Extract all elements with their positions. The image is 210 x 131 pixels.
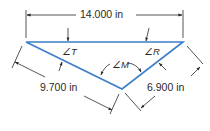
angle-m-arc-left xyxy=(101,64,110,75)
dimension-line-left-b xyxy=(84,96,112,110)
extension-line-left-b xyxy=(110,94,119,114)
angle-label-m: ∠M xyxy=(112,60,129,70)
angle-t-arrow-bottom xyxy=(59,62,62,71)
extension-line-right-b xyxy=(125,93,141,111)
dimension-label-right: 6.900 in xyxy=(147,82,184,93)
angle-label-r: ∠R xyxy=(144,47,160,57)
dimension-line-right-b xyxy=(141,96,155,108)
angle-r-arrow-bottom xyxy=(159,63,166,70)
dimension-label-left: 9.700 in xyxy=(40,82,77,93)
angle-m-arc-right xyxy=(128,63,141,72)
dimension-line-left-a xyxy=(15,62,45,77)
angle-r-arrow-top xyxy=(146,28,149,41)
dimension-line-right-a xyxy=(191,67,200,76)
extension-line-right-a xyxy=(187,46,203,64)
angle-label-t: ∠T xyxy=(62,47,77,57)
dimension-label-top: 14.000 in xyxy=(78,9,125,20)
